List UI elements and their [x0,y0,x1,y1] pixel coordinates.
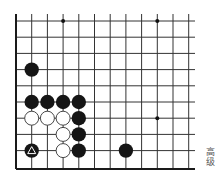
star-point [155,19,159,23]
black-stone[interactable] [56,95,70,109]
go-board [0,0,216,182]
black-stone[interactable] [72,111,86,125]
star-point [61,19,65,23]
white-stone[interactable] [25,111,39,125]
white-stone[interactable] [56,127,70,141]
black-stone[interactable] [72,95,86,109]
black-stone[interactable] [119,143,133,157]
black-stone[interactable] [25,62,39,76]
black-stone[interactable] [72,143,86,157]
white-stone[interactable] [56,144,70,158]
caption-text: 高级 [206,147,216,167]
star-point [155,116,159,120]
black-stone[interactable] [72,127,86,141]
white-stone[interactable] [40,111,54,125]
white-stone[interactable] [56,111,70,125]
black-stone[interactable] [25,95,39,109]
black-stone[interactable] [40,95,54,109]
black-stone[interactable] [25,143,39,157]
